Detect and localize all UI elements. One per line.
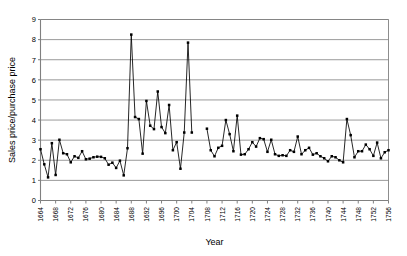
data-point [304, 149, 307, 152]
y-tick-label-6: 6 [32, 76, 36, 85]
data-point [296, 135, 299, 138]
data-point [191, 131, 194, 134]
x-tick-label-1756: 1756 [385, 207, 392, 222]
data-point [368, 148, 371, 151]
data-point [168, 104, 171, 107]
data-point [387, 149, 390, 152]
data-point [187, 41, 190, 44]
data-point [179, 167, 182, 170]
data-point [213, 155, 216, 158]
data-point [183, 131, 186, 134]
data-point [149, 124, 152, 127]
data-point [130, 33, 133, 36]
data-point [251, 141, 254, 144]
data-point [88, 157, 91, 160]
data-point [357, 150, 360, 153]
data-point [365, 143, 368, 146]
x-tick-label-1704: 1704 [188, 207, 195, 222]
data-point [58, 139, 61, 142]
data-point [172, 149, 175, 152]
data-point [232, 150, 235, 153]
x-tick-label-1708: 1708 [204, 207, 211, 222]
data-point [361, 150, 364, 153]
data-point [100, 156, 103, 159]
data-point [342, 161, 345, 164]
data-point [259, 137, 262, 140]
data-point [228, 133, 231, 136]
data-point [270, 139, 273, 142]
data-point [145, 100, 148, 103]
data-point [141, 152, 144, 155]
y-tick-label-3: 3 [32, 136, 36, 145]
data-point [300, 153, 303, 156]
data-point [217, 147, 220, 150]
data-point [380, 157, 383, 160]
data-point [315, 152, 318, 155]
y-tick-label-0: 0 [32, 196, 36, 205]
x-tick-label-1672: 1672 [67, 207, 74, 222]
data-point [54, 174, 57, 177]
data-point [73, 155, 76, 158]
data-point [51, 142, 54, 145]
data-point [164, 132, 167, 135]
y-tick-label-4: 4 [32, 116, 36, 125]
data-point [236, 114, 239, 117]
x-tick-label-1716: 1716 [234, 207, 241, 222]
data-point [134, 116, 137, 119]
x-tick-label-1748: 1748 [355, 207, 362, 222]
x-tick-label-1676: 1676 [82, 207, 89, 222]
data-point [372, 155, 375, 158]
data-point [43, 163, 46, 166]
y-tick-label-1: 1 [32, 176, 36, 185]
data-point [331, 155, 334, 158]
data-point [319, 155, 322, 158]
data-point [115, 167, 118, 170]
y-tick-label-8: 8 [32, 35, 36, 44]
data-point [281, 154, 284, 157]
data-point [285, 155, 288, 158]
data-point [47, 176, 50, 179]
x-tick-label-1664: 1664 [37, 207, 44, 222]
data-point [77, 157, 80, 160]
data-point [66, 153, 69, 156]
x-tick-label-1692: 1692 [143, 207, 150, 222]
data-point [85, 158, 88, 161]
data-point [323, 157, 326, 160]
x-tick-label-1740: 1740 [325, 207, 332, 222]
data-point [160, 126, 163, 129]
data-point [262, 138, 265, 141]
data-point [107, 163, 110, 166]
data-point [92, 156, 95, 159]
data-point [312, 153, 315, 156]
data-point [278, 155, 281, 158]
data-point [104, 157, 107, 160]
data-point [353, 156, 356, 159]
data-point [225, 119, 228, 122]
data-point [338, 159, 341, 162]
data-point [175, 141, 178, 144]
chart-container: 0123456789 16641668167216761680168416881… [0, 0, 407, 256]
x-tick-label-1744: 1744 [340, 207, 347, 222]
x-tick-label-1700: 1700 [173, 207, 180, 222]
data-point [153, 128, 156, 131]
data-point [119, 159, 122, 162]
x-tick-label-1688: 1688 [128, 207, 135, 222]
y-axis-title: Sales price/purchase price [7, 57, 17, 163]
data-point [157, 90, 160, 93]
x-tick-label-1732: 1732 [294, 207, 301, 222]
data-point [96, 155, 99, 158]
data-point [122, 174, 125, 177]
x-tick-label-1724: 1724 [264, 207, 271, 222]
data-point [349, 134, 352, 137]
y-tick-label-7: 7 [32, 56, 36, 65]
data-point [293, 151, 296, 154]
data-point [244, 153, 247, 156]
data-point [334, 156, 337, 159]
data-point [247, 148, 250, 151]
data-point [126, 147, 129, 150]
x-tick-label-1720: 1720 [249, 207, 256, 222]
x-tick-label-1728: 1728 [279, 207, 286, 222]
y-tick-label-2: 2 [32, 156, 36, 165]
data-point [209, 149, 212, 152]
data-point [138, 118, 141, 121]
